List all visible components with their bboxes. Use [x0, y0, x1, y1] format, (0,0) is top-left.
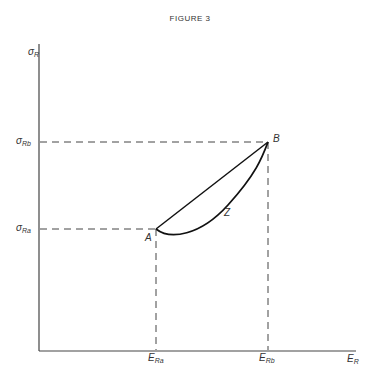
- tick-e-rb: ERb: [259, 352, 275, 364]
- tick-sigma-ra: σRa: [16, 222, 31, 234]
- y-axis-label: σR: [28, 46, 39, 58]
- point-a-label: A: [145, 232, 152, 243]
- diagram-canvas: [0, 0, 380, 383]
- tick-e-ra: ERa: [148, 352, 164, 364]
- x-axis-label: ER: [347, 353, 359, 365]
- tick-sigma-rb: σRb: [16, 135, 31, 147]
- chord-ab: [156, 142, 268, 229]
- point-b-label: B: [273, 133, 280, 144]
- curve-z-label: Z: [224, 207, 230, 218]
